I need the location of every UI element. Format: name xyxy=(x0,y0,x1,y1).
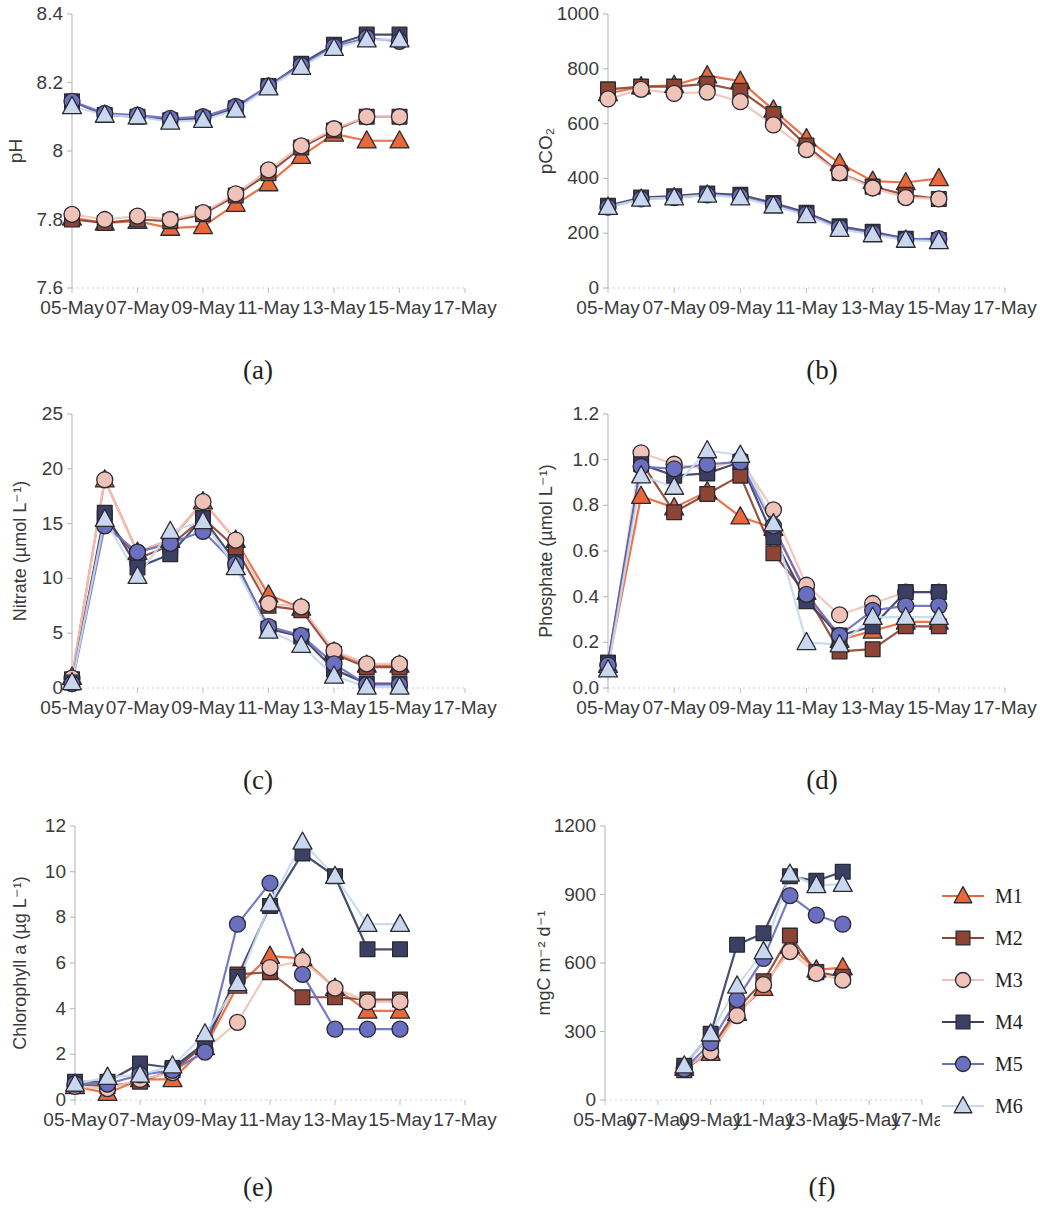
svg-text:300: 300 xyxy=(564,1021,596,1042)
panel-b-plot: 0200400600800100005-May07-May09-May11-Ma… xyxy=(500,0,1040,340)
panel-f-production: 0300600900120005-May07-May09-May11-May13… xyxy=(500,812,940,1152)
svg-text:400: 400 xyxy=(567,167,599,188)
svg-text:09-May: 09-May xyxy=(709,297,773,318)
svg-text:17-May: 17-May xyxy=(433,1109,497,1130)
svg-text:10: 10 xyxy=(45,861,66,882)
series-markers-M6 xyxy=(66,832,410,1091)
series-markers-M5 xyxy=(600,454,947,673)
svg-text:05-May: 05-May xyxy=(40,697,104,718)
svg-text:1.2: 1.2 xyxy=(573,403,599,424)
caption-c: (c) xyxy=(198,765,318,796)
svg-text:07-May: 07-May xyxy=(106,697,170,718)
svg-text:13-May: 13-May xyxy=(303,1109,367,1130)
svg-text:8: 8 xyxy=(52,140,63,161)
svg-text:8.2: 8.2 xyxy=(37,72,63,93)
panel-f-plot: 0300600900120005-May07-May09-May11-May13… xyxy=(500,812,940,1152)
panel-c-plot: 051015202505-May07-May09-May11-May13-May… xyxy=(0,400,500,745)
svg-text:4: 4 xyxy=(55,998,66,1019)
svg-text:1000: 1000 xyxy=(557,3,599,24)
svg-text:07-May: 07-May xyxy=(642,297,706,318)
panel-d-phosphate: 0.00.20.40.60.81.01.205-May07-May09-May1… xyxy=(500,400,1040,745)
legend-label-m2: M2 xyxy=(995,928,1023,948)
series-legend: M1 M2 M3 M4 M5 M6 xyxy=(940,886,1023,1116)
legend-label-m6: M6 xyxy=(995,1096,1023,1116)
svg-text:600: 600 xyxy=(567,113,599,134)
svg-text:pCO₂: pCO₂ xyxy=(535,128,556,174)
svg-text:09-May: 09-May xyxy=(171,697,235,718)
svg-text:15-May: 15-May xyxy=(368,297,432,318)
svg-text:0.6: 0.6 xyxy=(573,540,599,561)
svg-text:0: 0 xyxy=(588,277,599,298)
panel-b-pco2: 0200400600800100005-May07-May09-May11-Ma… xyxy=(500,0,1040,340)
svg-text:8.4: 8.4 xyxy=(37,3,64,24)
legend-marker-m5 xyxy=(940,1054,986,1074)
legend-marker-m1 xyxy=(940,886,986,906)
svg-text:15-May: 15-May xyxy=(368,1109,432,1130)
svg-text:17-May: 17-May xyxy=(433,297,497,318)
series-markers-M2 xyxy=(65,109,407,230)
svg-text:15: 15 xyxy=(42,513,63,534)
svg-text:17-May: 17-May xyxy=(890,1109,940,1130)
series-markers-M2 xyxy=(601,77,947,207)
svg-text:07-May: 07-May xyxy=(106,297,170,318)
svg-text:0.2: 0.2 xyxy=(573,631,599,652)
panel-e-plot: 02468101205-May07-May09-May11-May13-May1… xyxy=(0,812,500,1152)
svg-text:0.0: 0.0 xyxy=(573,677,599,698)
svg-text:900: 900 xyxy=(564,884,596,905)
svg-text:05-May: 05-May xyxy=(576,297,640,318)
panel-d-plot: 0.00.20.40.60.81.01.205-May07-May09-May1… xyxy=(500,400,1040,745)
svg-text:10: 10 xyxy=(42,567,63,588)
legend-label-m5: M5 xyxy=(995,1054,1023,1074)
caption-e: (e) xyxy=(198,1172,318,1203)
svg-text:pH: pH xyxy=(5,139,26,163)
multi-panel-figure: 7.67.888.28.405-May07-May09-May11-May13-… xyxy=(0,0,1040,1217)
svg-text:200: 200 xyxy=(567,222,599,243)
svg-text:25: 25 xyxy=(42,403,63,424)
caption-b: (b) xyxy=(762,355,882,386)
svg-text:600: 600 xyxy=(564,952,596,973)
svg-text:7.8: 7.8 xyxy=(37,209,63,230)
svg-text:mgC m⁻² d⁻¹: mgC m⁻² d⁻¹ xyxy=(534,910,554,1015)
svg-text:13-May: 13-May xyxy=(841,697,905,718)
svg-text:2: 2 xyxy=(55,1043,66,1064)
svg-text:13-May: 13-May xyxy=(841,297,905,318)
panel-e-chlorophyll: 02468101205-May07-May09-May11-May13-May1… xyxy=(0,812,500,1152)
svg-text:1.0: 1.0 xyxy=(573,449,599,470)
panel-a-plot: 7.67.888.28.405-May07-May09-May11-May13-… xyxy=(0,0,500,340)
svg-text:Phosphate (µmol L⁻¹): Phosphate (µmol L⁻¹) xyxy=(536,464,556,637)
svg-text:07-May: 07-May xyxy=(108,1109,172,1130)
svg-text:20: 20 xyxy=(42,458,63,479)
svg-text:Chlorophyll a (µg L⁻¹): Chlorophyll a (µg L⁻¹) xyxy=(10,876,30,1049)
svg-text:0: 0 xyxy=(52,677,63,698)
svg-text:05-May: 05-May xyxy=(40,297,104,318)
svg-text:6: 6 xyxy=(55,952,66,973)
svg-text:7.6: 7.6 xyxy=(37,277,63,298)
series-markers-M4 xyxy=(601,455,947,671)
legend-label-m3: M3 xyxy=(995,970,1023,990)
svg-text:0: 0 xyxy=(585,1089,596,1110)
panel-c-nitrate: 051015202505-May07-May09-May11-May13-May… xyxy=(0,400,500,745)
svg-text:13-May: 13-May xyxy=(302,297,366,318)
legend-item: M3 xyxy=(940,970,1023,990)
legend-item: M1 xyxy=(940,886,1023,906)
svg-text:1200: 1200 xyxy=(554,815,596,836)
legend-label-m1: M1 xyxy=(995,886,1023,906)
legend-item: M4 xyxy=(940,1012,1023,1032)
caption-f: (f) xyxy=(762,1172,882,1203)
legend-marker-m6 xyxy=(940,1096,986,1116)
svg-text:12: 12 xyxy=(45,815,66,836)
svg-text:07-May: 07-May xyxy=(642,697,706,718)
svg-text:05-May: 05-May xyxy=(576,697,640,718)
svg-text:09-May: 09-May xyxy=(171,297,235,318)
series-markers-M2 xyxy=(601,455,947,671)
legend-item: M5 xyxy=(940,1054,1023,1074)
svg-text:05-May: 05-May xyxy=(43,1109,107,1130)
legend-marker-m3 xyxy=(940,970,986,990)
svg-text:11-May: 11-May xyxy=(239,1109,301,1130)
svg-text:0: 0 xyxy=(55,1089,66,1110)
svg-text:11-May: 11-May xyxy=(776,297,838,318)
legend-label-m4: M4 xyxy=(995,1012,1023,1032)
svg-text:800: 800 xyxy=(567,58,599,79)
svg-text:11-May: 11-May xyxy=(238,697,300,718)
svg-text:15-May: 15-May xyxy=(907,697,971,718)
